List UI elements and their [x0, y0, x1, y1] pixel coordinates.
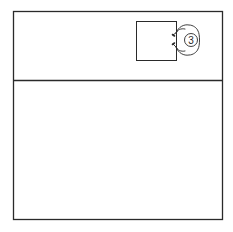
person-number-label: 3 [188, 35, 194, 46]
seating-diagram: 3 [0, 0, 233, 232]
background [0, 0, 233, 232]
table-square [137, 22, 177, 61]
